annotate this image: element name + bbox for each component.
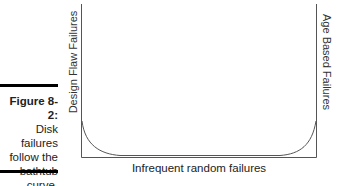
left-axis-label: Design Flaw Failures [67, 11, 79, 114]
bathtub-diagram [0, 0, 345, 186]
bathtub-curve [82, 121, 316, 156]
bottom-label: Infrequent random failures [81, 162, 317, 174]
right-axis-label: Age Based Failures [321, 14, 333, 110]
